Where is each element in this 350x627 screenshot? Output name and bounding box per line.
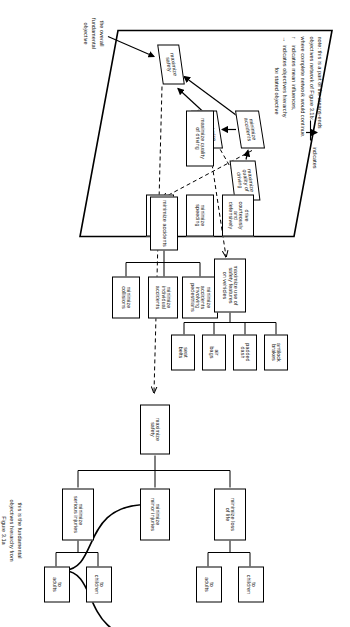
label-overall-fundamental-objective: the overall fundamental objective	[82, 6, 106, 60]
plane-box-minimize-accidents-label: minimize accidents	[243, 117, 258, 140]
me-leaf-seat-belts-label: seat belts	[178, 346, 189, 358]
overall-label-line-2: fundamental	[90, 6, 98, 60]
me-leaf-minimize-individual-accidents[interactable]: minimize individual accidents	[148, 276, 178, 318]
me-leaf-minimize-speeding[interactable]: minimize speeding	[186, 194, 214, 236]
me-leaf-drive-courteously-label: drive courteously and defensively	[227, 201, 249, 229]
figure-canvas: note: this is a part of the means-ends o…	[0, 0, 350, 627]
caption-line-1: this is the fundamental	[16, 470, 24, 590]
overall-label-line-3: objective	[82, 6, 90, 60]
figure-note: note: this is a part of the means-ends o…	[273, 36, 324, 137]
me-leaf-minimize-accidents-pedestrians-label: minimize accidents involving pedestrians	[189, 283, 211, 312]
plane-box-maximize-quality-of-driving-label: maximize quality of driving	[235, 168, 254, 191]
me-leaf-minimize-individual-accidents-label: minimize individual accidents	[155, 285, 171, 308]
note-legend-dashed-2: for stated objective	[273, 36, 281, 137]
note-line-1: note: this is a part of the means-ends	[316, 36, 324, 137]
overall-label-line-1: the overall	[98, 6, 106, 60]
me-leaf-drive-courteously[interactable]: drive courteously and defensively	[222, 194, 254, 236]
me-leaf-padded-dash[interactable]: padded dash	[233, 334, 257, 370]
note-legend-solid: indicates mean influences,	[291, 44, 297, 110]
fo-box-minimize-loss-of-life[interactable]: minimize loss of life	[214, 488, 246, 540]
me-leaf-antilock-brakes-label: antilock brakes	[271, 343, 282, 362]
fo-leaf-loss-of-life-to-children[interactable]: to children	[238, 566, 264, 602]
me-leaf-seat-belts[interactable]: seat belts	[171, 334, 195, 370]
me-leaf-minimize-accidents-pedestrians[interactable]: minimize accidents involving pedestrians	[182, 276, 218, 318]
fo-leaf-serious-injuries-to-adults-label: to adults	[52, 577, 63, 592]
fo-root-maximize-safety-label: maximize safety	[150, 417, 161, 440]
fo-leaf-serious-injuries-to-adults[interactable]: to adults	[44, 566, 70, 602]
me-leaf-minimize-collisions-label: minimize collisions	[121, 286, 132, 309]
fo-leaf-loss-of-life-to-adults[interactable]: to adults	[196, 566, 222, 602]
note-legend-arrow-label: indicates	[311, 146, 319, 168]
me-leaf-minimize-collisions[interactable]: minimize collisions	[112, 276, 140, 318]
me-leaf-padded-dash-label: padded dash	[240, 343, 251, 361]
fundamental-hierarchy-caption: this is the fundamental objectives hiera…	[0, 470, 24, 590]
me-box-maximize-use-of-safety-features[interactable]: maximize use of safety features on vehic…	[214, 258, 246, 312]
me-leaf-air-bags[interactable]: air bags	[202, 334, 226, 370]
fo-root-maximize-safety[interactable]: maximize safety	[140, 404, 170, 454]
fo-leaf-serious-injuries-to-children-label: to children	[94, 574, 105, 593]
plane-box-maximize-safety-label: maximize safety	[164, 52, 178, 75]
note-line-2: objectives network of Figure 3.1b:	[307, 36, 315, 137]
me-box-maximize-use-of-safety-features-label: maximize use of safety features on vehic…	[222, 265, 238, 305]
note-legend-dashed: indicates objectives hierarchy	[282, 44, 288, 117]
caption-line-3: Figure 3.1a	[0, 470, 8, 590]
fo-box-minimize-serious-injuries[interactable]: minimize serious injuries	[62, 488, 94, 540]
me-leaf-air-bags-label: air bags	[209, 346, 220, 358]
fo-box-minimize-serious-injuries-label: minimize serious injuries	[73, 496, 84, 533]
fo-box-minimize-minor-injuries-label: minimize minor injuries	[150, 498, 161, 531]
me-box-maximize-quality-of-driving[interactable]: maximize quality of driving	[186, 110, 214, 166]
fo-box-minimize-minor-injuries[interactable]: minimize minor injuries	[140, 488, 170, 540]
me-leaf-antilock-brakes[interactable]: antilock brakes	[264, 334, 288, 370]
caption-line-2: objectives hierarchy from	[8, 470, 16, 590]
me-box-minimize-accidents-label: minimize accidents	[161, 200, 166, 247]
note-line-3: where complete network would continue.	[299, 36, 307, 137]
fo-leaf-loss-of-life-to-children-label: to children	[246, 574, 257, 593]
fo-box-minimize-loss-of-life-label: minimize loss of life	[225, 497, 236, 530]
me-box-maximize-quality-of-driving-label: maximize quality of driving	[195, 118, 206, 159]
me-leaf-minimize-speeding-label: minimize speeding	[195, 204, 206, 226]
fo-leaf-loss-of-life-to-adults-label: to adults	[204, 577, 215, 592]
me-box-minimize-accidents[interactable]: minimize accidents	[150, 196, 178, 250]
fo-leaf-serious-injuries-to-children[interactable]: to children	[86, 566, 112, 602]
